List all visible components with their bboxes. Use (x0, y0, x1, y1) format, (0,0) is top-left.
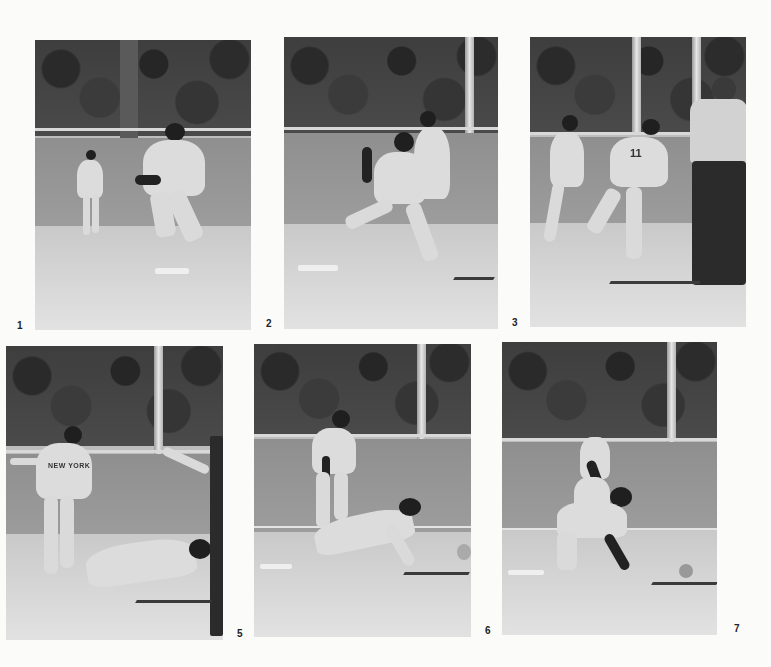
trees-background (6, 346, 223, 446)
arm (135, 175, 161, 185)
runner-leg (557, 532, 577, 570)
player-head (394, 132, 414, 152)
second-base-bag (260, 564, 292, 569)
leg (44, 496, 58, 574)
photo-number-2: 2 (266, 318, 272, 329)
leg (626, 187, 642, 259)
photo-2 (284, 37, 498, 329)
second-base-bag (155, 268, 189, 274)
fence (254, 434, 471, 437)
fence (35, 128, 251, 131)
jersey-text: NEW YORK (48, 462, 90, 469)
photo-number-3: 3 (512, 317, 518, 328)
shortstop-number-11 (610, 137, 668, 187)
pole (417, 344, 426, 440)
leg (334, 472, 348, 520)
player-head (332, 410, 350, 428)
pole (154, 346, 163, 454)
shadow (609, 281, 701, 284)
leg (60, 496, 74, 568)
ball (457, 544, 471, 560)
pole (632, 37, 641, 135)
photo-1 (35, 40, 251, 330)
photo-number-7: 7 (734, 623, 740, 634)
photo-number-1: 1 (17, 320, 23, 331)
photo-number-6: 6 (485, 625, 491, 636)
fielder-new-york (36, 443, 92, 499)
trees-background (35, 40, 251, 136)
player-head (642, 119, 660, 135)
fielder (312, 428, 356, 474)
trees-background (502, 342, 717, 439)
shadow (403, 572, 470, 575)
second-base-bag (298, 265, 338, 271)
player-head (86, 150, 96, 160)
ball (679, 564, 693, 578)
photo-5: NEW YORK (6, 346, 223, 640)
umpire-shirt (690, 99, 746, 163)
player-head (165, 123, 185, 141)
umpire-leg (210, 436, 223, 636)
runner-head (189, 539, 211, 559)
leg (83, 195, 90, 235)
arm (10, 458, 40, 465)
photo-7 (502, 342, 717, 635)
trees-background (254, 344, 471, 435)
player-head (420, 111, 436, 127)
fence (284, 127, 498, 130)
umpire-head (712, 77, 736, 101)
pole (465, 37, 474, 137)
leg (92, 195, 99, 233)
infield-dirt (35, 226, 251, 330)
pole (120, 40, 138, 140)
umpire-pants (692, 161, 746, 285)
player-head (64, 426, 82, 444)
shortstop-throwing (374, 152, 426, 204)
fence (502, 438, 717, 441)
shadow (453, 277, 495, 280)
photo-number-5: 5 (237, 628, 243, 639)
photo-6 (254, 344, 471, 637)
shadow (651, 582, 717, 585)
runner-head (399, 498, 421, 516)
pole (667, 342, 676, 444)
second-base-bag (508, 570, 544, 575)
throwing-arm (362, 147, 372, 183)
leg (316, 472, 330, 528)
player-head (562, 115, 578, 131)
second-baseman (550, 132, 584, 187)
photo-3: 11 (530, 37, 746, 327)
shortstop (143, 140, 205, 196)
background-infielder (77, 160, 103, 198)
jersey-number: 11 (630, 147, 642, 159)
shadow (135, 600, 212, 603)
